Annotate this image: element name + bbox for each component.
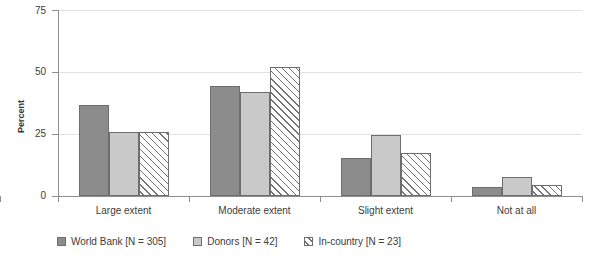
bar-not-at-all-series-1 (472, 187, 502, 196)
y-tick-label-0: 0 (18, 190, 46, 201)
y-tick-label-25: 25 (18, 128, 46, 139)
bar-moderate-extent-series-2 (240, 92, 270, 196)
solid-light-gray-swatch (193, 237, 202, 246)
bar-large-extent-series-1 (79, 105, 109, 196)
bar-moderate-extent-series-3 (270, 67, 300, 196)
x-category-label-moderate-extent: Moderate extent (189, 205, 320, 216)
y-tick-label-50: 50 (18, 66, 46, 77)
bar-large-extent-series-3 (139, 132, 169, 196)
legend-label-1: World Bank [N = 305] (71, 236, 166, 247)
legend-label-2: Donors [N = 42] (207, 236, 277, 247)
x-tick-mark-4 (582, 196, 583, 202)
legend-label-3: In-country [N = 23] (318, 236, 401, 247)
legend-item-1[interactable]: World Bank [N = 305] (57, 236, 166, 247)
bar-slight-extent-series-3 (401, 153, 431, 196)
y-tick-label-75: 75 (18, 5, 46, 16)
x-tick-mark-2 (0, 196, 1, 202)
bar-chart-figure: Percent 75 50 25 0 Large extent Moderate… (0, 0, 598, 267)
bar-slight-extent-series-2 (371, 135, 401, 196)
x-category-label-slight-extent: Slight extent (320, 205, 451, 216)
legend-item-3[interactable]: In-country [N = 23] (304, 236, 401, 247)
legend-item-2[interactable]: Donors [N = 42] (193, 236, 277, 247)
x-tick-mark-0 (58, 196, 59, 202)
diagonal-hatch-swatch (304, 237, 313, 246)
x-category-label-large-extent: Large extent (58, 205, 189, 216)
bar-not-at-all-series-3 (532, 185, 562, 196)
x-tick-mark-1 (189, 196, 190, 202)
bar-slight-extent-series-1 (341, 158, 371, 196)
chart-legend: World Bank [N = 305]Donors [N = 42]In-co… (57, 236, 428, 250)
x-tick-mark-2b (320, 196, 321, 202)
bar-moderate-extent-series-1 (210, 86, 240, 196)
x-category-label-not-at-all: Not at all (451, 205, 582, 216)
x-tick-mark-3 (451, 196, 452, 202)
bar-not-at-all-series-2 (502, 177, 532, 196)
footnote-cutoff-strip (0, 262, 260, 267)
bars-layer (58, 10, 582, 196)
bar-large-extent-series-2 (109, 132, 139, 196)
solid-dark-gray-swatch (57, 237, 66, 246)
